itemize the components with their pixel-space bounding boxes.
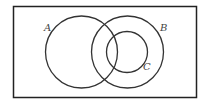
set-c-label: C xyxy=(143,61,151,72)
set-b-label: B xyxy=(159,22,167,33)
set-b-circle xyxy=(92,16,164,88)
venn-diagram: A B C xyxy=(0,0,208,104)
set-a-label: A xyxy=(43,22,51,33)
set-c-circle xyxy=(107,32,148,73)
universe-rectangle xyxy=(14,7,197,98)
